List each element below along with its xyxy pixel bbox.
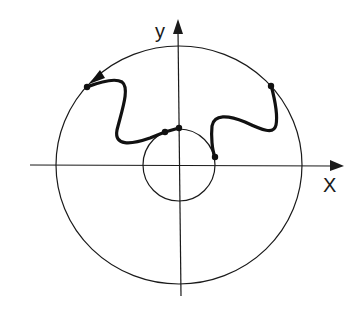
- diagram-canvas: X y: [0, 0, 363, 313]
- point-inner-left: [162, 129, 168, 135]
- point-inner-right: [212, 154, 218, 160]
- point-outer-left: [84, 84, 90, 90]
- x-axis: [30, 165, 334, 166]
- y-axis: [178, 30, 181, 296]
- point-outer-right: [268, 83, 274, 89]
- x-axis-label: X: [323, 174, 336, 196]
- contour-path: [87, 80, 277, 157]
- x-axis-arrow-icon: [330, 160, 344, 171]
- y-axis-label: y: [155, 20, 165, 42]
- point-inner-top: [176, 125, 182, 131]
- y-axis-arrow-icon: [173, 19, 183, 34]
